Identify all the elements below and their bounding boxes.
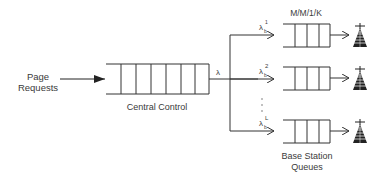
svg-text:L: L <box>265 115 269 121</box>
branch-rate-2: λ b 2 <box>259 63 269 78</box>
radio-tower-icon <box>353 119 367 143</box>
page-requests-label-line2: Requests <box>18 82 58 93</box>
branch-rate-L: λ b L <box>259 115 269 130</box>
arrival-rate-label: λ <box>216 68 220 77</box>
base-station-queue-1 <box>283 24 330 47</box>
svg-text:λ: λ <box>259 119 263 128</box>
branch-rate-1: λ b 1 <box>259 19 268 34</box>
base-station-queue-2 <box>283 67 330 90</box>
base-station-label-line1: Base Station <box>281 151 332 161</box>
central-control-label: Central Control <box>127 102 188 112</box>
svg-text:2: 2 <box>265 63 269 69</box>
central-queue <box>106 64 209 94</box>
base-station-queue-L <box>283 120 330 143</box>
svg-text:λ: λ <box>259 67 263 76</box>
radio-tower-icon <box>353 23 367 47</box>
page-requests-label-line1: Page <box>27 71 49 82</box>
ellipsis-dots <box>261 98 262 111</box>
svg-text:b: b <box>264 124 267 130</box>
radio-tower-icon <box>353 66 367 90</box>
svg-text:b: b <box>264 28 267 34</box>
svg-text:1: 1 <box>265 19 268 25</box>
svg-text:b: b <box>264 72 267 78</box>
queue-model-label: M/M/1/K <box>290 8 322 18</box>
queueing-diagram: Page Requests Central Control λ λ b 1 λ … <box>0 0 385 182</box>
base-station-label-line2: Queues <box>291 162 323 172</box>
svg-text:λ: λ <box>259 23 263 32</box>
